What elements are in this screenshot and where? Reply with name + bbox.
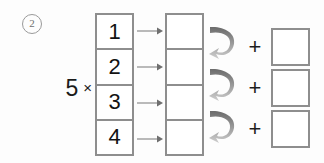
table-row[interactable]: [167, 15, 202, 50]
problem-number-badge: 2: [22, 14, 42, 34]
table-row[interactable]: [167, 121, 202, 154]
table-row[interactable]: 1: [97, 15, 132, 50]
multiplier-expression: 5 ×: [40, 74, 92, 102]
plus-sign: +: [245, 37, 265, 57]
arrow-right-icon: [137, 26, 163, 36]
arrow-right-icon: [137, 62, 163, 72]
plus-sign: +: [245, 78, 265, 98]
curved-arrow-icon: [208, 65, 240, 105]
table-row[interactable]: [167, 86, 202, 121]
arrow-right-icon: [137, 134, 163, 144]
multiplier-factor: 5: [65, 75, 78, 102]
table-row[interactable]: 2: [97, 50, 132, 85]
table-row[interactable]: 4: [97, 121, 132, 154]
worksheet-diagram: 2 5 × 1 2 3 4: [0, 0, 324, 163]
table-row[interactable]: [167, 50, 202, 85]
plus-sign: +: [245, 119, 265, 139]
list-item[interactable]: [271, 110, 310, 148]
curved-arrow-icon: [208, 23, 240, 63]
arrow-right-icon: [137, 98, 163, 108]
list-item[interactable]: [271, 69, 310, 107]
table-row[interactable]: 3: [97, 86, 132, 121]
list-item[interactable]: [271, 28, 310, 66]
partial-product-column: [165, 13, 204, 156]
curved-arrow-icon: [208, 107, 240, 147]
multiplication-sign: ×: [83, 79, 92, 97]
multiplicand-column: 1 2 3 4: [95, 13, 134, 156]
